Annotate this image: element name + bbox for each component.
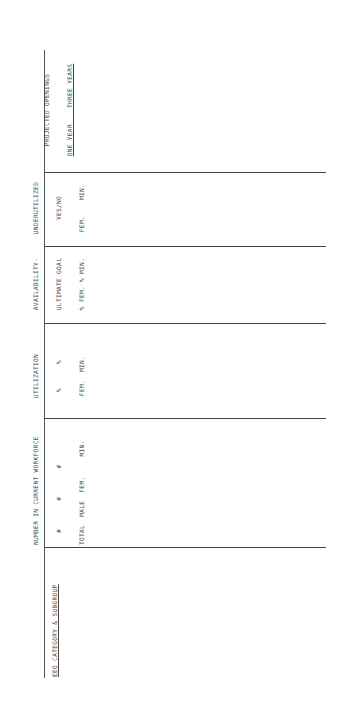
header-workforce-title: NUMBER IN CURRENT WORKFORCE xyxy=(32,420,40,545)
header-underutilized-subline: FEM. MIN. xyxy=(78,172,86,244)
header-underutilized-title2: YES/NO xyxy=(55,172,63,244)
column-divider-workforce xyxy=(44,547,326,548)
header-utilization-symbols: % % xyxy=(55,336,63,416)
header-availability-title: AVAILABILITY- xyxy=(32,247,40,321)
column-divider-availability xyxy=(44,323,326,324)
header-utilization-title: UTILIZATION xyxy=(32,336,40,416)
form-page: EEO CATEGORY & SUBGROUP NUMBER IN CURREN… xyxy=(0,0,342,722)
header-current-workforce: NUMBER IN CURRENT WORKFORCE # # # TOTAL … xyxy=(17,420,101,545)
header-availability-title2: ULTIMATE GOAL xyxy=(55,247,63,321)
header-workforce-symbols: # # # xyxy=(55,420,63,545)
header-availability-subline: % FEM. % MIN. xyxy=(78,247,86,321)
header-availability: AVAILABILITY- ULTIMATE GOAL % FEM. % MIN… xyxy=(17,247,101,321)
header-eeo-category-label: EEO CATEGORY & SUBGROUP xyxy=(51,584,59,677)
header-projected-subline: ONE YEAR THREE YEARS xyxy=(66,50,74,170)
column-divider-utilization xyxy=(44,418,326,419)
header-utilization-subline: FEM. MIN. xyxy=(78,336,86,416)
header-eeo-category: EEO CATEGORY & SUBGROUP xyxy=(36,584,74,677)
header-underutilized: UNDERUTILIZED YES/NO FEM. MIN. xyxy=(17,172,101,244)
header-projected-title: PROJECTED OPENINGS xyxy=(43,50,51,170)
header-projected-openings: PROJECTED OPENINGS ONE YEAR THREE YEARS xyxy=(28,50,89,170)
header-underutilized-title: UNDERUTILIZED xyxy=(32,172,40,244)
header-utilization: UTILIZATION % % FEM. MIN. xyxy=(17,336,101,416)
header-workforce-subline: TOTAL MALE FEM. MIN. xyxy=(78,420,86,545)
